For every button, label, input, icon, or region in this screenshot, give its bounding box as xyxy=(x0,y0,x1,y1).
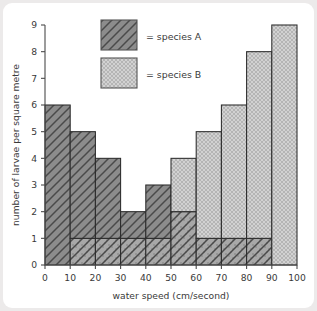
legend-swatch-species-a xyxy=(101,20,137,50)
y-tick-label-3: 3 xyxy=(31,179,37,190)
x-tick-label-40: 40 xyxy=(140,272,152,283)
x-axis-title: water speed (cm/second) xyxy=(113,290,230,301)
bar-species-b-80-90 xyxy=(247,52,272,239)
legend-swatch-species-b xyxy=(101,58,137,88)
y-tick-label-6: 6 xyxy=(31,99,37,110)
bar-species-a-40-50 xyxy=(146,185,171,238)
y-tick-label-1: 1 xyxy=(31,233,37,244)
x-tick-label-30: 30 xyxy=(115,272,127,283)
bar-overlap-80-90 xyxy=(247,238,272,265)
y-tick-label-2: 2 xyxy=(31,206,37,217)
bar-species-b-70-80 xyxy=(221,105,246,238)
bar-overlap-60-70 xyxy=(196,238,221,265)
y-tick-label-0: 0 xyxy=(31,259,37,270)
bar-species-b-90-100 xyxy=(272,25,297,265)
y-axis-title: number of larvae per square metre xyxy=(10,64,21,226)
y-tick-label-8: 8 xyxy=(31,46,37,57)
bar-species-b-60-70 xyxy=(196,132,221,239)
x-tick-label-100: 100 xyxy=(288,272,306,283)
x-tick-label-60: 60 xyxy=(190,272,202,283)
bar-overlap-70-80 xyxy=(221,238,246,265)
bar-species-a-20-30 xyxy=(95,158,120,238)
legend-label-species-a: = species A xyxy=(146,31,202,42)
chart-card: 01234567890102030405060708090100water sp… xyxy=(3,3,314,308)
bar-species-a-0-10 xyxy=(45,105,70,265)
bar-overlap-30-40 xyxy=(121,238,146,265)
bar-overlap-40-50 xyxy=(146,238,171,265)
x-tick-label-0: 0 xyxy=(42,272,48,283)
y-tick-label-9: 9 xyxy=(31,19,37,30)
chart-svg: 01234567890102030405060708090100water sp… xyxy=(3,3,314,308)
x-tick-label-70: 70 xyxy=(216,272,228,283)
chart-legend: = species A = species B xyxy=(101,20,202,88)
y-tick-label-4: 4 xyxy=(31,153,37,164)
bar-overlap-20-30 xyxy=(95,238,120,265)
legend-label-species-b: = species B xyxy=(146,69,201,80)
y-tick-label-5: 5 xyxy=(31,126,37,137)
bar-overlap-10-20 xyxy=(70,238,95,265)
histogram-chart: 01234567890102030405060708090100water sp… xyxy=(3,3,314,308)
bar-overlap-50-60 xyxy=(171,212,196,265)
x-tick-label-80: 80 xyxy=(241,272,253,283)
x-tick-label-90: 90 xyxy=(266,272,278,283)
bar-species-b-50-60 xyxy=(171,158,196,211)
bar-species-a-10-20 xyxy=(70,132,95,239)
x-tick-label-50: 50 xyxy=(165,272,177,283)
x-tick-label-20: 20 xyxy=(90,272,102,283)
bars-group xyxy=(45,25,297,265)
bar-species-a-30-40 xyxy=(121,212,146,239)
x-tick-label-10: 10 xyxy=(64,272,76,283)
y-tick-label-7: 7 xyxy=(31,73,37,84)
